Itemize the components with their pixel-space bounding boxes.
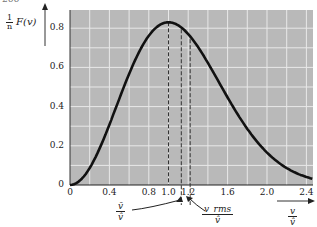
x-tick-label: 1.2 <box>176 187 200 197</box>
x-tick-label: 1.6 <box>216 187 240 197</box>
mean-speed-label: v̄ v̂ <box>116 201 125 222</box>
y-axis-arrow-head-icon <box>42 3 48 10</box>
x-tick-label: 0.4 <box>97 187 121 197</box>
x-axis-label-den: v̂ <box>288 217 297 227</box>
x-tick-label: 0 <box>58 187 82 197</box>
x-axis-arrow-head-icon <box>308 198 315 204</box>
y-tick-label: 0.8 <box>42 22 64 32</box>
x-tick-label: 2.4 <box>294 187 317 197</box>
rms-speed-den: v̂ <box>202 215 233 225</box>
mean-arrow <box>132 200 180 210</box>
x-tick-label: 2.0 <box>255 187 279 197</box>
rms-speed-label: v_rms v̂ <box>202 204 233 225</box>
mean-speed-den: v̂ <box>116 212 125 222</box>
y-tick-label: 0.2 <box>42 140 64 150</box>
x-axis-label: v v̂ <box>288 206 297 227</box>
y-tick-label: 0.4 <box>42 101 64 111</box>
mean-speed-num: v̄ <box>116 201 125 212</box>
rms-speed-num: v_rms <box>202 204 233 215</box>
x-axis-label-num: v <box>288 206 297 217</box>
y-tick-label: 0.6 <box>42 61 64 71</box>
